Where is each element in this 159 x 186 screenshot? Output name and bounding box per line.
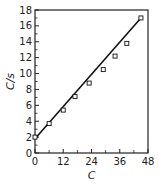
data-point-marker [73, 95, 77, 99]
data-point-marker [33, 135, 37, 139]
y-tick-label: 10 [19, 68, 32, 79]
x-tick-label: 48 [142, 156, 155, 167]
data-point-marker [47, 122, 51, 126]
y-axis-label: C/s [4, 73, 17, 90]
y-tick-label: 6 [26, 100, 32, 111]
y-tick-label: 14 [19, 36, 32, 47]
data-point-marker [87, 81, 91, 85]
chart: 024681012141618012243648CC/s [0, 0, 159, 186]
data-point-marker [101, 68, 105, 72]
data-point-marker [113, 54, 117, 58]
x-tick-label: 12 [57, 156, 70, 167]
y-tick-label: 16 [19, 20, 32, 31]
y-tick-label: 8 [26, 84, 32, 95]
x-tick-label: 36 [113, 156, 126, 167]
data-point-marker [139, 16, 143, 20]
x-axis-label: C [88, 169, 96, 182]
y-tick-label: 18 [19, 5, 32, 16]
x-tick-label: 0 [32, 156, 38, 167]
x-tick-label: 24 [85, 156, 98, 167]
y-tick-label: 12 [19, 52, 32, 63]
y-tick-label: 4 [26, 116, 32, 127]
y-tick-label: 2 [26, 132, 32, 143]
fit-line [35, 18, 141, 139]
data-point-marker [61, 108, 65, 112]
data-point-marker [125, 41, 129, 45]
